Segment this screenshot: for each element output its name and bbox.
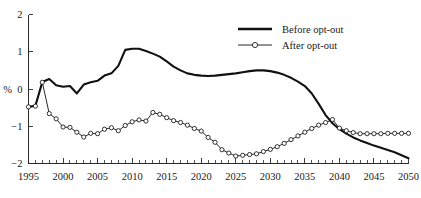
data-point-marker bbox=[372, 132, 376, 136]
data-point-marker bbox=[185, 123, 189, 127]
data-point-marker bbox=[254, 152, 258, 156]
data-point-marker bbox=[213, 140, 217, 144]
data-point-marker bbox=[406, 131, 410, 135]
x-tick-label: 2005 bbox=[87, 171, 108, 182]
x-tick-label: 2045 bbox=[363, 171, 384, 182]
data-point-marker bbox=[289, 138, 293, 142]
data-point-marker bbox=[247, 152, 251, 156]
x-tick-label: 1995 bbox=[18, 171, 39, 182]
y-axis-tick-labels: −2−1012 bbox=[11, 9, 22, 169]
data-point-marker bbox=[54, 117, 58, 121]
x-tick-label: 2025 bbox=[225, 171, 246, 182]
data-point-marker bbox=[137, 118, 141, 122]
data-point-marker bbox=[68, 125, 72, 129]
data-point-marker bbox=[61, 125, 65, 129]
y-tick-label: −1 bbox=[11, 121, 22, 132]
data-point-marker bbox=[47, 111, 51, 115]
data-point-marker bbox=[393, 131, 397, 135]
data-point-marker bbox=[116, 129, 120, 133]
data-point-marker bbox=[261, 149, 265, 153]
y-tick-label: 0 bbox=[17, 84, 22, 95]
x-tick-label: 2030 bbox=[260, 171, 281, 182]
data-point-marker bbox=[227, 151, 231, 155]
axis-spines bbox=[29, 15, 409, 164]
x-tick-label: 2050 bbox=[398, 171, 419, 182]
line-chart: −2−1012 19952000200520102015202020252030… bbox=[0, 0, 421, 198]
legend-label-after: After opt-out bbox=[282, 40, 337, 51]
data-point-marker bbox=[379, 132, 383, 136]
data-point-marker bbox=[206, 135, 210, 139]
y-axis-title: % bbox=[3, 84, 12, 95]
data-point-marker bbox=[337, 126, 341, 130]
x-tick-label: 2000 bbox=[53, 171, 74, 182]
chart-legend: Before opt-outAfter opt-out bbox=[238, 24, 344, 51]
data-point-marker bbox=[282, 141, 286, 145]
y-axis-title-label: % bbox=[3, 84, 12, 95]
data-point-marker bbox=[296, 134, 300, 138]
data-point-marker bbox=[303, 130, 307, 134]
data-point-marker bbox=[26, 105, 30, 109]
data-point-marker bbox=[82, 135, 86, 139]
tick-marks bbox=[29, 15, 409, 164]
data-point-marker bbox=[130, 120, 134, 124]
data-point-marker bbox=[123, 123, 127, 127]
y-tick-label: −2 bbox=[11, 158, 22, 169]
data-point-marker bbox=[317, 123, 321, 127]
x-tick-label: 2035 bbox=[294, 171, 315, 182]
x-tick-label: 2015 bbox=[156, 171, 177, 182]
data-point-marker bbox=[89, 131, 93, 135]
axes bbox=[29, 15, 409, 164]
data-point-marker bbox=[344, 129, 348, 133]
data-point-marker bbox=[241, 153, 245, 157]
data-point-marker bbox=[33, 104, 37, 108]
data-point-marker bbox=[358, 132, 362, 136]
legend-marker-sample-after bbox=[252, 42, 257, 47]
data-point-marker bbox=[351, 130, 355, 134]
y-tick-label: 2 bbox=[17, 9, 22, 20]
data-point-marker bbox=[192, 126, 196, 130]
data-point-marker bbox=[109, 126, 113, 130]
chart-container: −2−1012 19952000200520102015202020252030… bbox=[0, 0, 421, 198]
x-tick-label: 2040 bbox=[329, 171, 350, 182]
data-point-marker bbox=[310, 126, 314, 130]
data-point-marker bbox=[40, 80, 44, 84]
data-point-marker bbox=[268, 147, 272, 151]
x-tick-label: 2010 bbox=[122, 171, 143, 182]
data-series bbox=[26, 49, 410, 159]
legend-label-before: Before opt-out bbox=[282, 24, 344, 35]
series-line-before-opt-out bbox=[29, 49, 409, 159]
data-point-marker bbox=[386, 131, 390, 135]
data-point-marker bbox=[158, 112, 162, 116]
data-point-marker bbox=[399, 131, 403, 135]
data-point-marker bbox=[365, 132, 369, 136]
data-point-marker bbox=[151, 110, 155, 114]
data-point-marker bbox=[102, 127, 106, 131]
data-point-marker bbox=[275, 145, 279, 149]
data-point-marker bbox=[165, 116, 169, 120]
data-point-marker bbox=[75, 130, 79, 134]
data-point-marker bbox=[171, 119, 175, 123]
data-point-marker bbox=[323, 120, 327, 124]
data-point-marker bbox=[330, 117, 334, 121]
y-tick-label: 1 bbox=[17, 46, 22, 57]
data-point-marker bbox=[234, 154, 238, 158]
x-tick-label: 2020 bbox=[191, 171, 212, 182]
x-axis-tick-labels: 1995200020052010201520202025203020352040… bbox=[18, 171, 419, 182]
series-line-after-opt-out bbox=[29, 82, 409, 156]
data-point-marker bbox=[178, 120, 182, 124]
data-point-marker bbox=[199, 129, 203, 133]
data-point-marker bbox=[144, 119, 148, 123]
data-point-marker bbox=[220, 148, 224, 152]
data-point-marker bbox=[95, 132, 99, 136]
